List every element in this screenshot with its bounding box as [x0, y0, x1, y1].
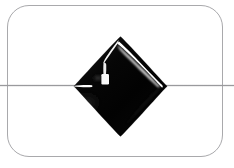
- black-diamond-bead: [73, 36, 168, 137]
- lower-left-sheen: [73, 78, 125, 118]
- square-glint: [101, 74, 109, 84]
- product-photo: [0, 0, 234, 168]
- highlight-hook-stem: [103, 62, 106, 75]
- bead-illustration: [73, 36, 168, 137]
- screenshot-root: [0, 0, 234, 168]
